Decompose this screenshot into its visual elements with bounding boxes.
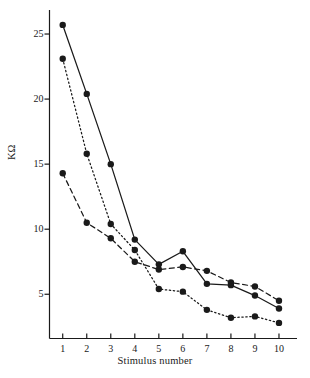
y-tick-label: 20 [20,94,44,104]
data-point [276,305,282,311]
data-point [84,91,90,97]
series-line-dotted [63,59,279,323]
data-point [156,266,162,272]
x-tick-label: 1 [51,344,75,354]
data-point [252,283,258,289]
chart-plot-area [0,0,310,378]
x-axis-label: Stimulus number [0,355,310,366]
data-point [228,279,234,285]
data-point [84,151,90,157]
data-point [60,22,66,28]
data-point [252,292,258,298]
data-point [132,247,138,253]
data-point [180,248,186,254]
x-tick-label: 5 [147,344,171,354]
series-line-solid [63,25,279,309]
data-point [132,236,138,242]
x-tick-label: 8 [219,344,243,354]
data-point [108,235,114,241]
data-point [204,268,210,274]
x-tick-label: 10 [267,344,291,354]
data-point [228,314,234,320]
data-point [60,56,66,62]
y-tick-label: 25 [20,29,44,39]
data-point [252,313,258,319]
data-point [60,170,66,176]
chart-figure: KΩ Stimulus number 51015202512345678910 [0,0,310,378]
x-tick-label: 3 [99,344,123,354]
data-point [204,281,210,287]
data-point [84,219,90,225]
data-point [276,298,282,304]
data-point [108,221,114,227]
x-tick-label: 6 [171,344,195,354]
x-tick-label: 7 [195,344,219,354]
x-tick-label: 2 [75,344,99,354]
data-point [180,264,186,270]
y-tick-label: 15 [20,159,44,169]
x-tick-label: 9 [243,344,267,354]
data-point [204,307,210,313]
data-point [180,288,186,294]
data-point [132,259,138,265]
y-tick-label: 10 [20,224,44,234]
data-point [108,161,114,167]
y-axis-label: KΩ [6,145,17,160]
series-line-dashed [63,173,279,301]
y-tick-label: 5 [20,289,44,299]
data-point [276,320,282,326]
x-tick-label: 4 [123,344,147,354]
data-point [156,286,162,292]
